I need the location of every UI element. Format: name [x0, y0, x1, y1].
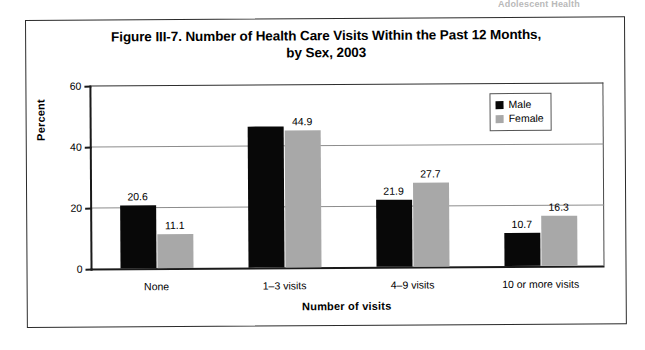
bar-value-label: 10.7	[512, 218, 533, 230]
bar-male-0: 20.6	[120, 205, 156, 268]
plot-right-rule	[602, 82, 604, 265]
bar-male-1	[247, 126, 284, 267]
legend-item-male: Male	[495, 98, 543, 111]
y-tick-mark	[84, 86, 91, 88]
x-axis-category-label: 1–3 visits	[263, 279, 307, 291]
legend-label: Female	[509, 112, 544, 125]
y-tick-label: 0	[77, 263, 83, 275]
bar-value-label: 44.9	[292, 115, 313, 127]
page-header-fragment: Adolescent Health	[498, 0, 638, 9]
bar-male-2: 21.9	[376, 200, 412, 267]
bar-female-1: 44.9	[284, 130, 321, 267]
legend-swatch-icon	[496, 101, 504, 109]
chart-title: Figure III-7. Number of Health Care Visi…	[56, 26, 596, 63]
bar-value-label: 20.6	[127, 190, 148, 202]
x-axis-title: Number of visits	[91, 298, 603, 313]
bar-value-label: 27.7	[420, 167, 441, 179]
bar-male-3: 10.7	[504, 233, 540, 266]
figure-frame: Figure III-7. Number of Health Care Visi…	[25, 16, 627, 328]
y-tick-label: 20	[70, 202, 82, 214]
bar-value-label: 21.9	[383, 185, 404, 197]
chart-title-line-2: by Sex, 2003	[56, 43, 596, 63]
gridline	[92, 204, 604, 208]
bar-female-2: 27.7	[412, 182, 449, 267]
bar-female-0: 11.1	[157, 234, 193, 268]
gridline	[92, 143, 604, 147]
x-axis-category-label: 4–9 visits	[391, 279, 435, 291]
y-tick-mark	[85, 147, 92, 149]
y-tick-label: 60	[70, 80, 82, 92]
legend-swatch-icon	[496, 115, 504, 123]
bar-value-label: 16.3	[548, 201, 569, 213]
plot-area: 0204060 20.611.144.921.927.710.716.3 Non…	[89, 82, 604, 270]
legend-item-female: Female	[496, 112, 544, 125]
bar-value-label: 11.1	[165, 219, 185, 231]
legend-label: Male	[508, 98, 531, 111]
y-tick-label: 40	[70, 141, 82, 153]
chart-legend: MaleFemale	[489, 93, 551, 131]
y-tick-mark	[85, 208, 92, 210]
bar-female-3: 16.3	[541, 216, 577, 266]
chart-title-line-1: Figure III-7. Number of Health Care Visi…	[111, 27, 541, 45]
x-axis-category-label: None	[144, 280, 169, 292]
y-axis-title: Percent	[34, 99, 46, 141]
x-axis-category-label: 10 or more visits	[502, 278, 579, 290]
y-tick-mark	[86, 269, 93, 271]
plot-top-rule	[91, 82, 603, 86]
